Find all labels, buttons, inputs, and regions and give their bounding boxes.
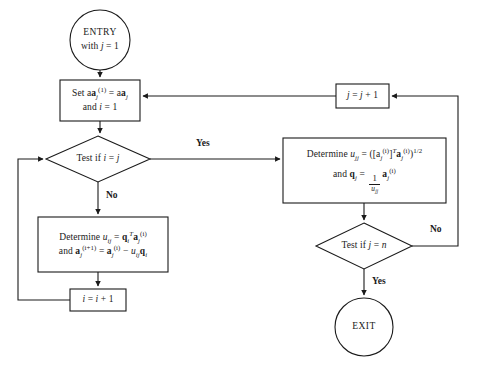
entry-terminal-shape [70, 10, 130, 70]
flowchart-connectors-and-shapes [0, 0, 477, 366]
determine-uij-process-shape [38, 217, 168, 272]
test-jn-decision-shape [316, 223, 412, 269]
incr-j-process-shape [336, 84, 389, 108]
init-process-shape [60, 80, 140, 121]
incr-i-process-shape [70, 289, 126, 311]
edge-test-jn-no [392, 96, 458, 246]
flowchart-canvas: ENTRY with j = 1 Set aaj(1) = aaj and i … [0, 0, 477, 366]
exit-terminal-shape [335, 298, 393, 356]
edge-incr-i-loopback [18, 159, 70, 300]
test-ij-decision-shape [46, 136, 150, 182]
determine-ujj-process-shape [283, 138, 446, 203]
